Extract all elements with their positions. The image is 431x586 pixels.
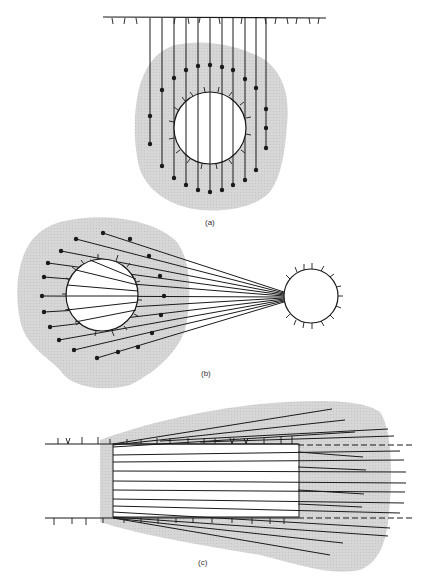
panel-a <box>103 17 326 210</box>
panel-c <box>45 401 415 572</box>
diagram-canvas <box>0 0 431 586</box>
cavity-circle-b-right <box>284 269 338 323</box>
panel-label-a: (a) <box>205 218 215 227</box>
panel-b <box>17 217 343 388</box>
surface-ticks <box>112 18 319 24</box>
panel-label-b: (b) <box>201 369 211 378</box>
top-surface-line <box>103 17 326 18</box>
panel-label-c: (c) <box>198 558 207 567</box>
